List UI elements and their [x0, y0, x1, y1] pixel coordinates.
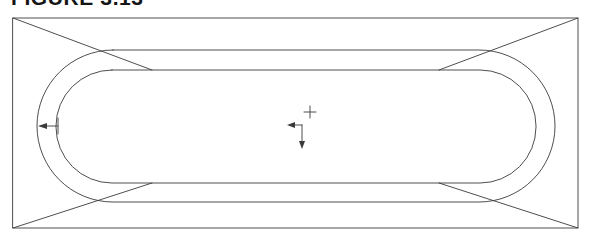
corner-miter-bottom-left: [13, 183, 152, 228]
bathtub-plan-drawing: [0, 0, 593, 244]
origin-axis-leader: [287, 122, 305, 149]
drain-center-crosshair: [304, 106, 316, 118]
figure-page: FIGURE 3.13: [0, 0, 593, 244]
corner-miter-bottom-right: [439, 183, 578, 228]
tub-outer-wall: [37, 50, 555, 202]
tub-inner-basin: [56, 70, 536, 183]
corner-miter-lines: [13, 18, 578, 228]
corner-miter-top-left: [13, 18, 152, 70]
corner-miter-top-right: [439, 18, 578, 70]
wall-thickness-arrowhead: [38, 123, 47, 129]
wall-thickness-arrow: [38, 118, 58, 134]
axis-leader-arrowhead-down: [299, 141, 305, 149]
axis-leader-arrowhead-left: [287, 122, 295, 128]
